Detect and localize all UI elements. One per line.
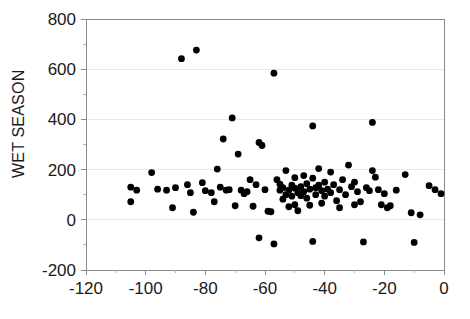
- data-point: [357, 198, 364, 205]
- data-point: [366, 187, 373, 194]
- data-point: [172, 184, 179, 191]
- data-point: [229, 114, 236, 121]
- data-point: [351, 179, 358, 186]
- data-point: [244, 188, 251, 195]
- data-point: [327, 169, 334, 176]
- data-point: [369, 167, 376, 174]
- data-point: [184, 181, 191, 188]
- data-point: [250, 203, 257, 210]
- x-axis-tick-labels-group: -120-100-80-60-40-200: [69, 279, 449, 298]
- data-points-group: [127, 47, 444, 248]
- data-point: [315, 165, 322, 172]
- data-point: [381, 190, 388, 197]
- data-point: [402, 171, 409, 178]
- data-point: [163, 187, 170, 194]
- data-point: [360, 238, 367, 245]
- data-point: [303, 195, 310, 202]
- x-axis-tick-label: -120: [69, 279, 103, 298]
- data-point: [154, 186, 161, 193]
- data-point: [133, 187, 140, 194]
- y-axis-tick-label: -200: [42, 261, 76, 280]
- data-point: [169, 204, 176, 211]
- data-point: [438, 190, 445, 197]
- data-point: [309, 175, 316, 182]
- data-point: [232, 202, 239, 209]
- data-point: [339, 176, 346, 183]
- x-axis-ticks-group: [86, 270, 444, 275]
- data-point: [187, 189, 194, 196]
- x-axis-tick-label: 0: [439, 279, 448, 298]
- x-axis-tick-label: -40: [312, 279, 337, 298]
- data-point: [378, 201, 385, 208]
- data-point: [408, 209, 415, 216]
- data-point: [327, 189, 334, 196]
- data-point: [336, 186, 343, 193]
- data-point: [217, 184, 224, 191]
- data-point: [178, 55, 185, 62]
- data-point: [342, 191, 349, 198]
- data-point: [330, 181, 337, 188]
- data-point: [372, 174, 379, 181]
- y-axis-title: WET SEASON: [10, 70, 27, 178]
- data-point: [211, 198, 218, 205]
- data-point: [321, 179, 328, 186]
- plot-canvas: -2000200400600800 -120-100-80-60-40-200 …: [0, 0, 470, 319]
- data-point: [336, 204, 343, 211]
- data-point: [202, 187, 209, 194]
- data-point: [268, 208, 275, 215]
- y-axis-tick-label: 800: [48, 10, 76, 29]
- y-axis-tick-label: 0: [67, 211, 76, 230]
- y-axis-tick-labels-group: -2000200400600800: [42, 10, 76, 280]
- data-point: [321, 193, 328, 200]
- data-point: [214, 166, 221, 173]
- data-point: [291, 201, 298, 208]
- data-point: [190, 209, 197, 216]
- y-axis-tick-label: 400: [48, 110, 76, 129]
- data-point: [291, 174, 298, 181]
- data-point: [375, 186, 382, 193]
- data-point: [432, 186, 439, 193]
- data-point: [271, 70, 278, 77]
- data-point: [253, 181, 260, 188]
- data-point: [199, 179, 206, 186]
- data-point: [417, 211, 424, 218]
- data-point: [411, 239, 418, 246]
- y-axis-tick-label: 600: [48, 60, 76, 79]
- data-point: [312, 191, 319, 198]
- data-point: [393, 187, 400, 194]
- data-point: [208, 189, 215, 196]
- data-point: [309, 123, 316, 130]
- data-point: [309, 238, 316, 245]
- data-point: [300, 172, 307, 179]
- data-point: [426, 182, 433, 189]
- data-point: [271, 241, 278, 248]
- data-point: [262, 186, 269, 193]
- data-point: [256, 234, 263, 241]
- data-point: [294, 207, 301, 214]
- x-axis-tick-label: -60: [253, 279, 278, 298]
- data-point: [127, 184, 134, 191]
- data-point: [127, 198, 134, 205]
- data-point: [306, 202, 313, 209]
- data-point: [282, 167, 289, 174]
- x-axis-tick-label: -100: [129, 279, 163, 298]
- data-point: [226, 186, 233, 193]
- y-axis-tick-label: 200: [48, 161, 76, 180]
- data-point: [306, 186, 313, 193]
- data-point: [288, 193, 295, 200]
- data-point: [285, 203, 292, 210]
- data-point: [247, 176, 254, 183]
- data-point: [148, 169, 155, 176]
- data-point: [345, 162, 352, 169]
- data-point: [259, 142, 266, 149]
- data-point: [220, 136, 227, 143]
- data-point: [369, 119, 376, 126]
- data-point: [193, 47, 200, 54]
- y-axis-ticks-group: [81, 19, 86, 270]
- data-point: [333, 197, 340, 204]
- data-point: [354, 188, 361, 195]
- data-point: [318, 200, 325, 207]
- data-point: [300, 188, 307, 195]
- data-point: [235, 151, 242, 158]
- data-point: [351, 201, 358, 208]
